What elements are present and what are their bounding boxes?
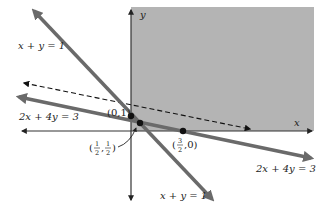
vertex-3half-0: [180, 128, 186, 134]
svg-text:2: 2: [95, 149, 99, 157]
label-2x-plus-4y-left: 2x + 4y = 3: [18, 111, 79, 122]
label-point-half-half: ( 1 2 , 1 2 ): [89, 140, 116, 157]
shaded-region: [131, 7, 314, 131]
svg-text:,: ,: [101, 142, 104, 153]
svg-text:(: (: [89, 142, 93, 153]
x-axis-label: x: [294, 117, 300, 128]
svg-text:1: 1: [106, 140, 110, 148]
vertex-half-half: [137, 120, 143, 126]
label-x-plus-y-top: x + y = 1: [18, 40, 65, 51]
svg-text:2: 2: [106, 149, 110, 157]
svg-text:1: 1: [95, 140, 99, 148]
svg-text:): ): [112, 142, 116, 153]
svg-text:2: 2: [178, 146, 182, 154]
label-2x-plus-4y-right: 2x + 4y = 3: [255, 163, 316, 174]
label-point-0-1: (0,1): [107, 107, 131, 118]
feasible-region-diagram: y x x + y = 1 x + y = 1 2x + 4y = 3 2x +…: [0, 0, 331, 217]
svg-text:(: (: [172, 139, 176, 150]
svg-text:3: 3: [178, 137, 182, 145]
svg-text:,0): ,0): [184, 139, 198, 150]
label-point-3half-0: ( 3 2 ,0): [172, 137, 198, 154]
label-x-plus-y-bottom: x + y = 1: [160, 190, 207, 201]
y-axis-label: y: [139, 9, 146, 20]
